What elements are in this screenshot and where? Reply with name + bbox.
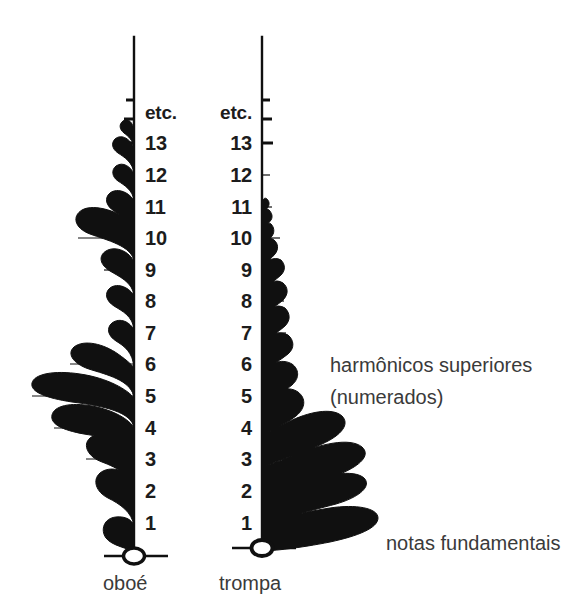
trompa-notehead	[252, 540, 273, 556]
oboe-harmonic-label-13: 13	[145, 133, 167, 153]
upper-harmonics-annotation-line1: harmônicos superiores	[330, 353, 532, 378]
trompa-harmonic-label-11: 11	[204, 197, 252, 217]
oboe-harmonic-label-5: 5	[145, 386, 156, 406]
oboe-harmonic-label-2: 2	[145, 481, 156, 501]
trompa-harmonic-label-3: 3	[204, 449, 252, 469]
trompa-harmonic-label-8: 8	[204, 291, 252, 311]
oboe-harmonic-label-9: 9	[145, 260, 156, 280]
trompa-harmonic-label-6: 6	[204, 354, 252, 374]
trompa-chart-group	[232, 37, 378, 556]
trompa-upper-ticks	[262, 100, 273, 143]
spectra-drawing	[0, 0, 586, 607]
oboe-harmonic-label-1: 1	[145, 513, 156, 533]
trompa-harmonic-label-10: 10	[204, 228, 252, 248]
upper-harmonics-annotation-line2: (numerados)	[330, 385, 443, 410]
instrument-label-trompa: trompa	[219, 572, 281, 595]
trompa-harmonic-label-etc: etc.	[200, 103, 252, 122]
trompa-harmonic-label-13: 13	[204, 133, 252, 153]
trompa-harmonic-label-2: 2	[204, 481, 252, 501]
oboe-spectrum-curve	[32, 120, 134, 552]
oboe-harmonic-label-etc: etc.	[145, 103, 177, 122]
fundamentals-annotation: notas fundamentais	[386, 531, 561, 556]
oboe-harmonic-label-4: 4	[145, 418, 156, 438]
trompa-harmonic-label-7: 7	[204, 323, 252, 343]
oboe-harmonic-label-11: 11	[145, 197, 166, 217]
oboe-harmonic-label-8: 8	[145, 291, 156, 311]
trompa-harmonic-label-9: 9	[204, 260, 252, 280]
trompa-harmonic-label-4: 4	[204, 418, 252, 438]
instrument-label-oboe: oboé	[103, 572, 148, 595]
oboe-harmonic-label-3: 3	[145, 449, 156, 469]
oboe-notehead	[124, 548, 145, 564]
oboe-harmonic-label-6: 6	[145, 354, 156, 374]
trompa-harmonic-label-5: 5	[204, 386, 252, 406]
oboe-harmonic-label-12: 12	[145, 165, 167, 185]
oboe-harmonic-label-7: 7	[145, 323, 156, 343]
oboe-fundamental-note	[104, 548, 168, 564]
harmonic-spectra-figure: 1 2 3 4 5 6 7 8 9 10 11 12 13 etc. 1 2 3…	[0, 0, 586, 607]
trompa-harmonic-label-1: 1	[204, 513, 252, 533]
oboe-harmonic-label-10: 10	[145, 228, 167, 248]
trompa-harmonic-label-12: 12	[204, 165, 252, 185]
